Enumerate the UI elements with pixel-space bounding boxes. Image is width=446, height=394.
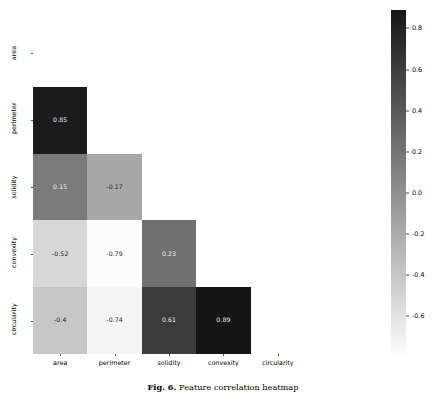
heatmap-cell: 0.23 [142,220,196,287]
heatmap-cell-value: 0.23 [162,251,176,257]
heatmap-cell: -0.52 [33,220,87,287]
y-tick-mark [31,187,33,188]
colorbar-gradient [391,10,406,355]
colorbar-tick-label: 0.2 [412,148,422,154]
heatmap-cell: -0.79 [87,220,141,287]
correlation-heatmap-figure: 0.850.15-0.17-0.52-0.790.23-0.4-0.740.61… [0,0,446,394]
heatmap-plot-area: 0.850.15-0.17-0.52-0.790.23-0.4-0.740.61… [33,20,305,354]
y-tick-mark [31,321,33,322]
y-tick-label: solidity [11,173,17,201]
x-tick-label: solidity [158,360,181,366]
colorbar-tick-mark [406,69,409,70]
y-tick-mark [31,254,33,255]
x-tick-label: convexity [208,360,239,366]
y-tick-mark [31,120,33,121]
caption-text: Feature correlation heatmap [179,383,298,392]
colorbar: 0.80.60.40.20.0-0.2-0.4-0.6 [391,10,446,355]
y-tick-label: area [11,39,17,67]
heatmap-cell-value: 0.61 [162,317,176,323]
heatmap-cell-value: 0.15 [53,184,67,190]
colorbar-tick-mark [406,110,409,111]
colorbar-tick-label: -0.4 [412,272,424,278]
heatmap-cell: -0.74 [87,287,141,354]
heatmap-cell-value: -0.52 [52,251,69,257]
x-tick-mark [115,354,116,356]
colorbar-tick-label: 0.0 [412,190,422,196]
heatmap-cell-value: -0.74 [106,317,123,323]
heatmap-cell-value: -0.4 [54,317,66,323]
x-tick-mark [223,354,224,356]
x-tick-mark [278,354,279,356]
y-tick-label: circularity [11,307,17,335]
colorbar-tick-mark [406,274,409,275]
heatmap-cell: -0.17 [87,154,141,221]
x-tick-label: circularity [262,360,294,366]
x-tick-label: area [53,360,67,366]
heatmap-cell-value: 0.89 [216,317,230,323]
heatmap-cell: 0.61 [142,287,196,354]
colorbar-tick-label: 0.6 [412,66,422,72]
x-tick-mark [60,354,61,356]
colorbar-tick-label: 0.4 [412,107,422,113]
y-tick-mark [31,53,33,54]
colorbar-tick-mark [406,192,409,193]
colorbar-tick-label: -0.2 [412,231,424,237]
x-tick-label: perimeter [99,360,131,366]
x-tick-mark [169,354,170,356]
y-tick-label: perimeter [11,106,17,134]
colorbar-tick-mark [406,315,409,316]
colorbar-tick-mark [406,233,409,234]
colorbar-tick-mark [406,151,409,152]
colorbar-tick-mark [406,28,409,29]
heatmap-cell: 0.89 [196,287,250,354]
colorbar-tick-label: -0.6 [412,313,424,319]
heatmap-cell-value: -0.79 [106,251,123,257]
heatmap-cell: 0.85 [33,87,87,154]
heatmap-cell: -0.4 [33,287,87,354]
heatmap-cell: 0.15 [33,154,87,221]
figure-caption: Fig. 6. Feature correlation heatmap [0,383,446,392]
caption-label: Fig. 6. [148,383,177,392]
heatmap-cell-grid: 0.850.15-0.17-0.52-0.790.23-0.4-0.740.61… [33,20,305,354]
heatmap-cell-value: 0.85 [53,117,67,123]
colorbar-tick-label: 0.8 [412,25,422,31]
y-tick-label: convexity [11,240,17,268]
heatmap-cell-value: -0.17 [106,184,123,190]
